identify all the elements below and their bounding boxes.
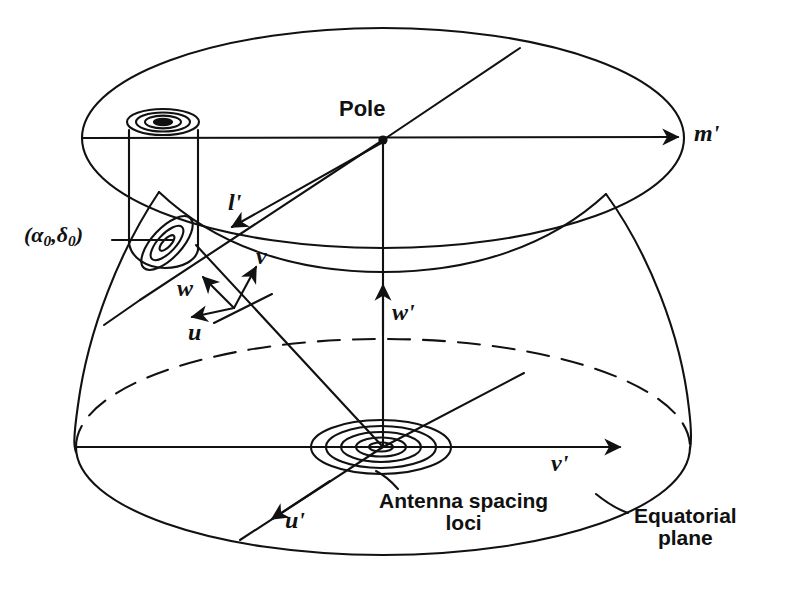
source-coords-alpha: α xyxy=(31,222,43,247)
leader-equatorial-plane xyxy=(596,494,628,513)
source-coords-close: ) xyxy=(76,222,83,247)
figure-celestial-sphere: Pole m' l' (α0,δ0) w v u w' v' u' Antenn… xyxy=(0,0,796,595)
label-m-prime: m' xyxy=(694,121,719,146)
radius-origin-to-equator-back-right xyxy=(383,373,524,447)
label-pole: Pole xyxy=(339,97,385,120)
label-w: w xyxy=(177,276,193,301)
sphere-left-profile xyxy=(74,192,159,452)
radius-source-extension xyxy=(104,300,140,325)
projected-loci-ring-3 xyxy=(154,119,172,125)
axis-l-prime xyxy=(232,142,383,227)
equatorial-plane-line-1: Equatorial xyxy=(634,505,737,527)
pole-dot xyxy=(378,135,387,144)
sphere-right-profile xyxy=(606,194,691,449)
label-antenna-spacing-loci: Antenna spacing loci xyxy=(379,490,548,534)
label-u: u xyxy=(188,320,201,345)
label-l-prime: l' xyxy=(228,190,241,215)
label-v-prime: v' xyxy=(551,451,568,476)
radius-pole-to-upper-right-rim xyxy=(383,48,520,140)
source-coords-delta-subscript: 0 xyxy=(68,232,76,249)
vector-v xyxy=(234,267,256,308)
antenna-loci-line-2: loci xyxy=(379,512,548,534)
label-equatorial-plane: Equatorial plane xyxy=(634,505,737,549)
antenna-loci-line-1: Antenna spacing xyxy=(379,490,548,512)
label-u-prime: u' xyxy=(285,508,305,533)
label-source-coordinates: (α0,δ0) xyxy=(24,223,83,249)
label-v: v xyxy=(256,244,267,269)
equatorial-plane-line-2: plane xyxy=(634,527,737,549)
radius-origin-to-source-direction xyxy=(196,245,383,447)
source-coords-delta: δ xyxy=(57,222,68,247)
source-patch-middle xyxy=(145,221,188,265)
label-w-prime: w' xyxy=(392,300,415,325)
